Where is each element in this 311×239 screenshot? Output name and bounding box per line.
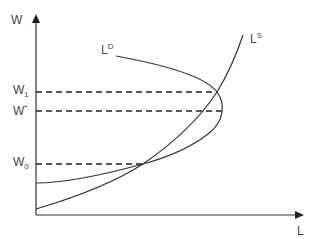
w1-label: W1 xyxy=(13,84,29,99)
diagram-canvas xyxy=(0,0,311,239)
x-axis-arrow-icon xyxy=(295,211,304,219)
supply-curve-label: LS xyxy=(250,32,262,45)
y-axis-label: W xyxy=(11,14,22,26)
wstar-label: W* xyxy=(13,104,27,117)
demand-curve-label: LD xyxy=(101,43,113,56)
w0-label: W0 xyxy=(13,156,29,171)
x-axis-label: L xyxy=(297,225,304,237)
y-axis-arrow-icon xyxy=(32,14,40,23)
